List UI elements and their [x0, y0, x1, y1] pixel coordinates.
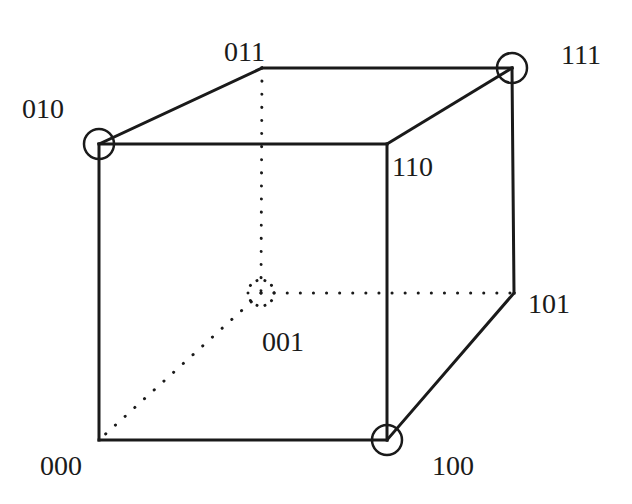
cube-edges [99, 68, 514, 440]
vertex-label-010: 010 [22, 95, 64, 123]
edge-111-110 [387, 68, 512, 144]
vertex-markers [84, 53, 527, 455]
vertex-label-110: 110 [392, 153, 433, 181]
vertex-label-000: 000 [40, 452, 82, 480]
vertex-label-101: 101 [528, 290, 570, 318]
vertex-label-011: 011 [224, 38, 265, 66]
hypercube-diagram [0, 0, 632, 504]
vertex-label-100: 100 [432, 452, 474, 480]
edge-010-011 [99, 68, 262, 144]
vertex-label-001: 001 [262, 328, 304, 356]
edge-111-101 [512, 68, 514, 293]
vertex-label-111: 111 [561, 41, 601, 69]
edge-101-100 [387, 293, 514, 440]
edge-001-000 [99, 293, 261, 440]
edge-011-001 [261, 68, 262, 293]
